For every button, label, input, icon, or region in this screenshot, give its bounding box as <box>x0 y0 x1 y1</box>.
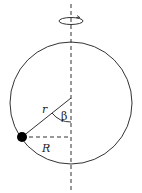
hoop-diagram: r β R <box>0 0 142 193</box>
bead <box>17 132 27 142</box>
label-beta: β <box>61 110 67 123</box>
label-r: r <box>42 103 48 116</box>
label-R: R <box>41 142 50 155</box>
